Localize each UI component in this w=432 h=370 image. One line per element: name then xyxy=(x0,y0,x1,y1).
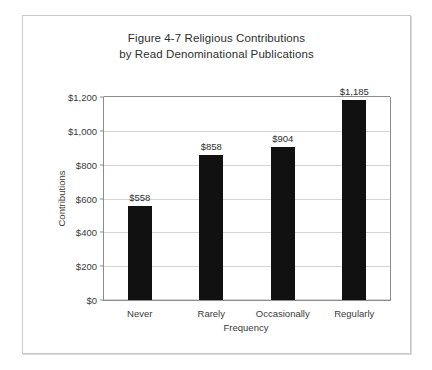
y-axis-title-label: Contributions xyxy=(57,171,68,227)
bar-value-label: $904 xyxy=(272,133,293,144)
bar-value-label: $1,185 xyxy=(340,86,369,97)
y-tick-label: $600 xyxy=(76,193,97,204)
x-tick-label: Rarely xyxy=(198,308,225,319)
y-tick-label: $0 xyxy=(86,295,97,306)
bar xyxy=(128,206,152,300)
x-axis-title: Frequency xyxy=(103,322,389,333)
y-tick-label: $1,000 xyxy=(68,125,97,136)
y-axis-title: Contributions xyxy=(55,97,69,300)
chart-title-line-2: by Read Denominational Publications xyxy=(23,46,410,62)
x-tick-label: Regularly xyxy=(334,308,374,319)
bar-slot: $558Never xyxy=(104,97,176,300)
bar-slot: $1,185Regularly xyxy=(319,97,391,300)
y-tick-label: $800 xyxy=(76,159,97,170)
bar-slot: $858Rarely xyxy=(176,97,248,300)
x-axis-title-label: Frequency xyxy=(224,322,269,333)
chart-title-line-1: Figure 4-7 Religious Contributions xyxy=(23,30,410,46)
y-tick-label: $400 xyxy=(76,227,97,238)
x-tick-label: Never xyxy=(127,308,152,319)
chart-title: Figure 4-7 Religious Contributions by Re… xyxy=(23,30,410,62)
bar-value-label: $558 xyxy=(129,192,150,203)
plot-area: $0$200$400$600$800$1,000$1,200 $558Never… xyxy=(103,97,391,301)
y-tick-label: $200 xyxy=(76,261,97,272)
bar xyxy=(271,147,295,300)
bar-value-label: $858 xyxy=(201,141,222,152)
x-tick-label: Occasionally xyxy=(256,308,310,319)
bar-slot: $904Occasionally xyxy=(247,97,319,300)
y-tick-label: $1,200 xyxy=(68,92,97,103)
bar xyxy=(199,155,223,300)
bar xyxy=(342,100,366,300)
figure-frame: Figure 4-7 Religious Contributions by Re… xyxy=(22,15,411,354)
